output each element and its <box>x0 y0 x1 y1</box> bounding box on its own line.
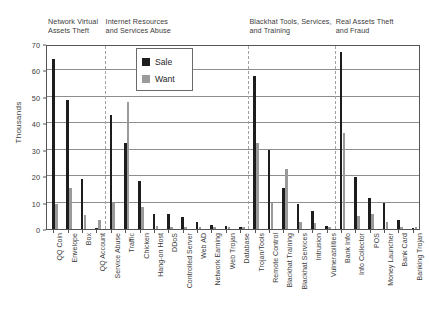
x-tick-mark <box>154 230 155 233</box>
y-tick-label-10: 10 <box>0 199 40 208</box>
bar-group <box>363 46 377 229</box>
x-tick-mark <box>255 230 256 233</box>
bar-want <box>170 227 173 229</box>
legend-item-want: Want <box>142 70 192 87</box>
bar-want <box>343 133 346 229</box>
x-tick-label: QQ Account <box>99 233 106 271</box>
bar-group <box>378 46 392 229</box>
bar-group <box>191 46 205 229</box>
bar-group <box>306 46 320 229</box>
bar-want <box>415 227 418 229</box>
x-tick-label: Envelope <box>71 233 78 263</box>
bar-group <box>320 46 334 229</box>
x-tick-label: DDoS <box>171 233 178 252</box>
bar-want <box>213 227 216 229</box>
x-tick-mark <box>226 230 227 233</box>
legend-item-sale: Sale <box>142 53 192 70</box>
bar-group <box>205 46 219 229</box>
bar-want <box>299 222 302 229</box>
group-header-0: Network Virtual Assets Theft <box>48 17 98 36</box>
x-tick-label: Bank Card <box>401 233 408 267</box>
chart-figure: Network Virtual Assets TheftInternet Res… <box>0 0 429 313</box>
x-tick-label: Blackhat Services <box>301 233 308 289</box>
legend-label-want: Want <box>155 74 175 84</box>
x-tick-label: Controlled Server <box>186 233 193 288</box>
group-header-3: Real Assets Theft and Fraud <box>336 17 394 36</box>
x-tick-label: Remote Control <box>272 233 279 283</box>
bar-want <box>242 227 245 229</box>
bar-want <box>314 223 317 229</box>
bar-group <box>90 46 104 229</box>
bar-want <box>357 216 360 229</box>
x-tick-mark <box>384 230 385 233</box>
bar-want <box>371 214 374 229</box>
bar-group <box>349 46 363 229</box>
x-tick-mark <box>197 230 198 233</box>
bar-group <box>407 46 421 229</box>
x-tick-mark <box>53 230 54 233</box>
x-tick-mark <box>82 230 83 233</box>
x-tick-mark <box>125 230 126 233</box>
x-tick-mark <box>269 230 270 233</box>
x-tick-mark <box>283 230 284 233</box>
legend-label-sale: Sale <box>155 57 172 67</box>
y-tick-label-0: 0 <box>0 226 40 235</box>
x-tick-mark <box>168 230 169 233</box>
x-tick-mark <box>341 230 342 233</box>
x-tick-label: QQ Coin <box>56 233 63 261</box>
x-tick-label: POS <box>373 233 380 248</box>
x-tick-mark <box>413 230 414 233</box>
bar-want <box>141 207 144 229</box>
x-tick-label: Vulnerabilities <box>330 233 337 277</box>
x-tick-mark <box>370 230 371 233</box>
x-tick-label: Trojan/Tools <box>258 233 265 271</box>
x-tick-label: Bank Info <box>344 233 351 263</box>
x-tick-mark <box>298 230 299 233</box>
bar-group <box>61 46 75 229</box>
bar-group <box>277 46 291 229</box>
y-tick-label-20: 20 <box>0 173 40 182</box>
bar-group <box>392 46 406 229</box>
bar-want <box>127 102 130 229</box>
y-tick-label-30: 30 <box>0 146 40 155</box>
x-tick-label: Traffic <box>128 233 135 252</box>
x-tick-mark <box>355 230 356 233</box>
legend-swatch-sale <box>142 58 150 66</box>
group-header-2: Blackhat Tools, Services, and Training <box>249 17 331 36</box>
x-tick-label: Service Abuse <box>114 233 121 278</box>
y-tick-label-60: 60 <box>0 67 40 76</box>
bar-want <box>55 204 58 229</box>
bar-want <box>84 215 87 229</box>
bar-want <box>285 169 288 229</box>
bar-want <box>184 227 187 229</box>
legend-swatch-want <box>142 75 150 83</box>
bar-want <box>400 227 403 229</box>
bar-want <box>386 222 389 229</box>
bar-want <box>199 227 202 229</box>
bar-group <box>220 46 234 229</box>
x-tick-label: Chicken <box>143 233 150 259</box>
x-tick-label: Hang-on Host <box>157 233 164 277</box>
plot-area <box>46 45 420 230</box>
y-tick-label-40: 40 <box>0 120 40 129</box>
bar-want <box>328 227 331 229</box>
x-tick-mark <box>140 230 141 233</box>
x-tick-label: Network Earning <box>214 233 221 286</box>
x-tick-label: Intrusion <box>315 233 322 260</box>
bar-want <box>256 143 259 229</box>
x-tick-mark <box>96 230 97 233</box>
x-tick-mark <box>312 230 313 233</box>
x-tick-mark <box>68 230 69 233</box>
bar-group <box>234 46 248 229</box>
x-tick-mark <box>240 230 241 233</box>
x-tick-label: Web Trojan <box>229 233 236 269</box>
bar-want <box>69 188 72 229</box>
x-tick-label: Box <box>85 233 92 245</box>
bar-group <box>105 46 119 229</box>
y-tick-label-50: 50 <box>0 93 40 102</box>
x-tick-label: Info Collector <box>358 233 365 275</box>
y-tick-label-70: 70 <box>0 41 40 50</box>
x-tick-mark <box>398 230 399 233</box>
bar-group <box>263 46 277 229</box>
bar-want <box>271 203 274 229</box>
